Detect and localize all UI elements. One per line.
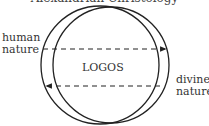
divine-nature-label: divine nature <box>176 74 209 98</box>
logos-label: LOGOS <box>82 62 124 74</box>
human-nature-label: human nature <box>2 32 40 56</box>
diagram-canvas: Alexandrian Christology human nature div… <box>0 0 209 126</box>
human-nature-label-line2: nature <box>2 44 40 56</box>
divine-nature-label-line2: nature <box>176 86 209 98</box>
